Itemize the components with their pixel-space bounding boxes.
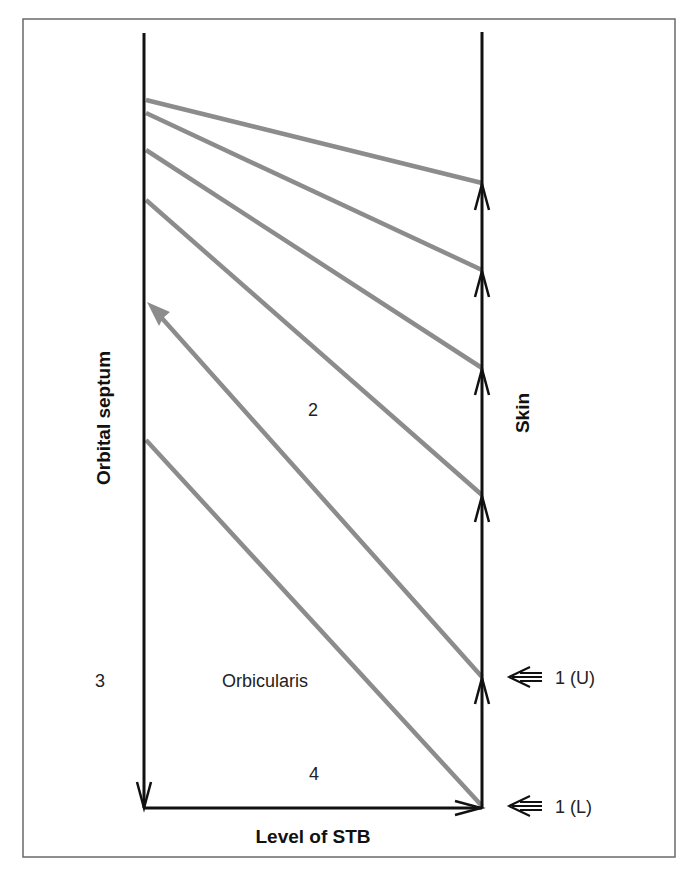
skin-label: Skin: [512, 393, 533, 433]
fiber-line-1: [146, 100, 482, 183]
region-3-label: 3: [95, 671, 105, 691]
marker-arrow-upper: [509, 667, 542, 687]
gray-fiber-lines: [146, 100, 482, 806]
orbital-septum-label: Orbital septum: [93, 351, 114, 485]
marker-upper-label: 1 (U): [555, 668, 595, 688]
region-2-label: 2: [308, 400, 318, 420]
marker-arrow-lower: [509, 796, 542, 816]
gray-arrow-line: [160, 316, 482, 677]
stb-diagram: Orbital septum Skin Level of STB 2 3 4 O…: [0, 0, 690, 877]
stb-level-label: Level of STB: [255, 826, 370, 847]
figure-frame: [23, 19, 675, 857]
region-4-label: 4: [309, 764, 319, 784]
fiber-line-3: [146, 150, 482, 368]
marker-lower-label: 1 (L): [555, 797, 592, 817]
orbicularis-label: Orbicularis: [222, 671, 308, 691]
